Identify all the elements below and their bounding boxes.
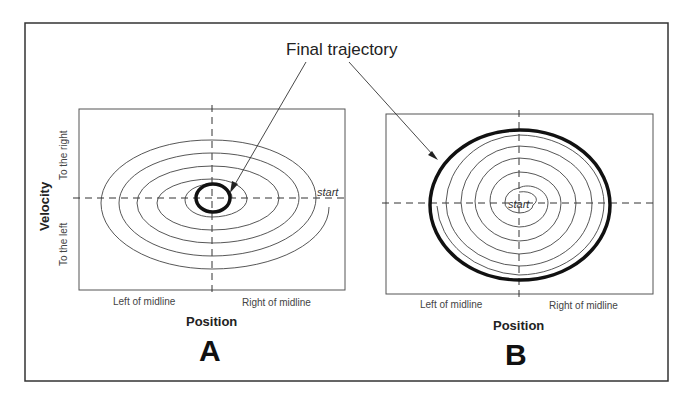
panel-a-y-title: Velocity (37, 182, 52, 231)
panel-b-x-right-label: Right of midline (549, 300, 618, 311)
panel-a-plot (73, 105, 345, 295)
arrow-to-panel-a (234, 62, 306, 186)
phase-portrait-figure: Final trajectory start To the right To t… (0, 0, 692, 396)
panel-a-x-right-label: Right of midline (242, 297, 311, 308)
panel-a-letter: A (199, 334, 221, 368)
panel-a-y-top-label: To the right (58, 131, 69, 180)
arrow-to-panel-b (349, 62, 433, 155)
panel-a-x-left-label: Left of midline (113, 296, 175, 307)
outer-frame (25, 23, 668, 381)
panel-b-start-label: start (508, 198, 529, 210)
arrowhead-b-icon (428, 151, 438, 160)
panel-a-final-trajectory (196, 184, 230, 212)
panel-a-y-bottom-label: To the left (58, 223, 69, 266)
panel-b-letter: B (505, 338, 527, 372)
annotation-arrows (230, 62, 438, 193)
panel-a-start-label: start (317, 186, 338, 198)
panel-b-x-title: Position (493, 318, 544, 333)
arrowhead-a-icon (230, 181, 238, 193)
final-trajectory-label: Final trajectory (286, 40, 397, 60)
panel-b-x-left-label: Left of midline (420, 299, 482, 310)
panel-a-spiral (101, 140, 329, 269)
panel-a-x-title: Position (186, 314, 237, 329)
